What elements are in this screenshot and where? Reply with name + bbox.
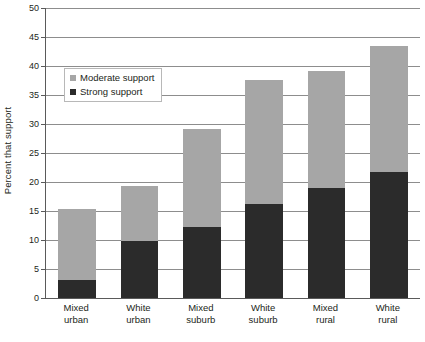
plot-area bbox=[45, 8, 420, 299]
x-axis-label-line1: White bbox=[357, 302, 419, 314]
bar-segment-moderate-support bbox=[308, 71, 345, 188]
legend-swatch-moderate-icon bbox=[70, 75, 76, 81]
x-axis-label-line2: suburb bbox=[232, 314, 294, 326]
x-axis-label-line1: Mixed bbox=[45, 302, 107, 314]
x-axis-label-line1: Mixed bbox=[294, 302, 356, 314]
y-axis-tick-label: 15 bbox=[29, 206, 39, 216]
x-axis-label: Mixedrural bbox=[294, 302, 356, 326]
y-axis-tick-label: 50 bbox=[29, 3, 39, 13]
stacked-bar bbox=[308, 71, 345, 298]
legend-label: Moderate support bbox=[80, 72, 154, 84]
x-axis-label-line1: White bbox=[107, 302, 169, 314]
bar-segment-moderate-support bbox=[370, 46, 407, 172]
bars-layer bbox=[46, 8, 420, 298]
y-axis-tick-label: 45 bbox=[29, 32, 39, 42]
bar-segment-moderate-support bbox=[121, 186, 158, 242]
bar-segment-strong-support bbox=[370, 172, 407, 298]
y-axis-tick-label: 0 bbox=[34, 293, 39, 303]
y-axis-tick-label: 5 bbox=[34, 264, 39, 274]
x-axis-label: Whitesuburb bbox=[232, 302, 294, 326]
bar-slot bbox=[295, 8, 357, 298]
bar-slot bbox=[171, 8, 233, 298]
legend-label: Strong support bbox=[80, 86, 142, 98]
stacked-bar bbox=[58, 209, 95, 298]
x-axis-label: Whiterural bbox=[357, 302, 419, 326]
y-axis-title: Percent that support bbox=[0, 0, 16, 300]
bar-segment-moderate-support bbox=[245, 80, 282, 204]
x-axis-label-line2: urban bbox=[45, 314, 107, 326]
bar-segment-strong-support bbox=[58, 280, 95, 298]
stacked-bar bbox=[245, 80, 282, 298]
bar-segment-moderate-support bbox=[183, 129, 220, 227]
x-axis-category-labels: MixedurbanWhiteurbanMixedsuburbWhitesubu… bbox=[45, 302, 419, 326]
bar-segment-strong-support bbox=[121, 241, 158, 298]
x-axis-label-line1: Mixed bbox=[170, 302, 232, 314]
x-axis-label: Whiteurban bbox=[107, 302, 169, 326]
y-axis-tick-label: 40 bbox=[29, 61, 39, 71]
legend-swatch-strong-icon bbox=[70, 89, 76, 95]
y-axis-tick-label: 35 bbox=[29, 90, 39, 100]
y-axis-tick-label: 10 bbox=[29, 235, 39, 245]
bar-segment-strong-support bbox=[308, 188, 345, 298]
x-axis-label-line1: White bbox=[232, 302, 294, 314]
y-axis-tick-label: 25 bbox=[29, 148, 39, 158]
x-axis-label: Mixedurban bbox=[45, 302, 107, 326]
x-axis-label-line2: rural bbox=[357, 314, 419, 326]
x-axis-label: Mixedsuburb bbox=[170, 302, 232, 326]
bar-slot bbox=[108, 8, 170, 298]
y-axis-tick-label: 30 bbox=[29, 119, 39, 129]
bar-slot bbox=[358, 8, 420, 298]
bar-chart: Percent that support 0510152025303540455… bbox=[0, 0, 425, 342]
bar-segment-moderate-support bbox=[58, 209, 95, 280]
y-axis-tickmark bbox=[41, 298, 46, 299]
legend-item: Strong support bbox=[70, 86, 154, 98]
y-axis-tick-label: 20 bbox=[29, 177, 39, 187]
y-axis-title-text: Percent that support bbox=[3, 106, 14, 194]
x-axis-label-line2: rural bbox=[294, 314, 356, 326]
gridline bbox=[46, 298, 420, 299]
bar-segment-strong-support bbox=[245, 204, 282, 298]
bar-slot bbox=[233, 8, 295, 298]
legend-item: Moderate support bbox=[70, 72, 154, 84]
stacked-bar bbox=[370, 46, 407, 298]
y-axis-tick-labels: 05101520253035404550 bbox=[16, 0, 42, 300]
x-axis-label-line2: suburb bbox=[170, 314, 232, 326]
bar-segment-strong-support bbox=[183, 227, 220, 298]
stacked-bar bbox=[121, 186, 158, 299]
x-axis-label-line2: urban bbox=[107, 314, 169, 326]
stacked-bar bbox=[183, 129, 220, 298]
bar-slot bbox=[46, 8, 108, 298]
chart-legend: Moderate supportStrong support bbox=[64, 68, 162, 102]
